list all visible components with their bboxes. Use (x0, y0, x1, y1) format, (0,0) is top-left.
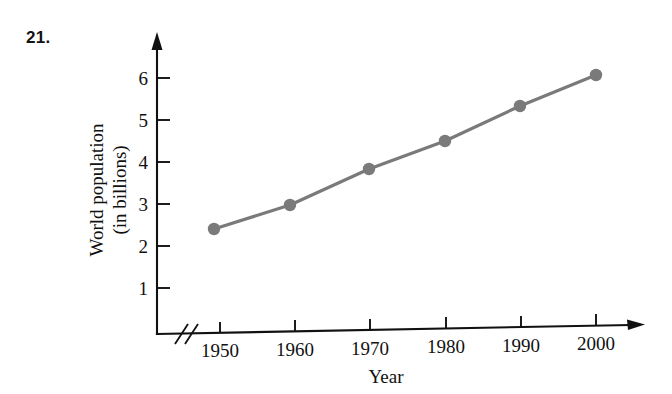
data-line (214, 75, 596, 229)
x-tick-label: 2000 (577, 333, 615, 354)
data-point (590, 69, 602, 81)
y-tick-label: 3 (139, 194, 149, 215)
data-point (363, 163, 375, 175)
y-axis-arrowhead (152, 32, 163, 50)
y-axis-ticks (157, 78, 170, 288)
x-axis-tick-labels: 1950 1960 1970 1980 1990 2000 (201, 333, 615, 361)
data-series-world-population (208, 69, 602, 235)
y-tick-label: 1 (139, 278, 149, 299)
x-tick-label: 1950 (201, 340, 239, 361)
figure-container: 21. 1 2 3 (0, 0, 672, 394)
x-tick-label: 1990 (502, 335, 540, 356)
data-point (514, 100, 526, 112)
x-axis-line (157, 325, 630, 334)
y-tick-label: 4 (139, 152, 149, 173)
x-axis-title: Year (368, 366, 404, 387)
y-axis-title: World population (in billions) (86, 123, 131, 257)
data-point (439, 135, 451, 147)
y-axis-tick-labels: 1 2 3 4 5 6 (139, 68, 149, 299)
problem-number: 21. (26, 28, 51, 48)
y-tick-label: 5 (139, 110, 149, 131)
data-point (208, 223, 220, 235)
y-axis-title-line1: World population (86, 123, 107, 257)
line-chart: 1 2 3 4 5 6 1950 1960 1970 1980 1990 200… (0, 0, 672, 394)
y-axis-title-line2: (in billions) (109, 145, 131, 234)
x-tick-label: 1960 (276, 339, 314, 360)
x-tick-label: 1980 (427, 336, 465, 357)
data-point (284, 199, 296, 211)
y-tick-label: 2 (139, 236, 149, 257)
y-tick-label: 6 (139, 68, 149, 89)
x-axis-arrowhead (627, 320, 645, 331)
x-tick-label: 1970 (351, 338, 389, 359)
